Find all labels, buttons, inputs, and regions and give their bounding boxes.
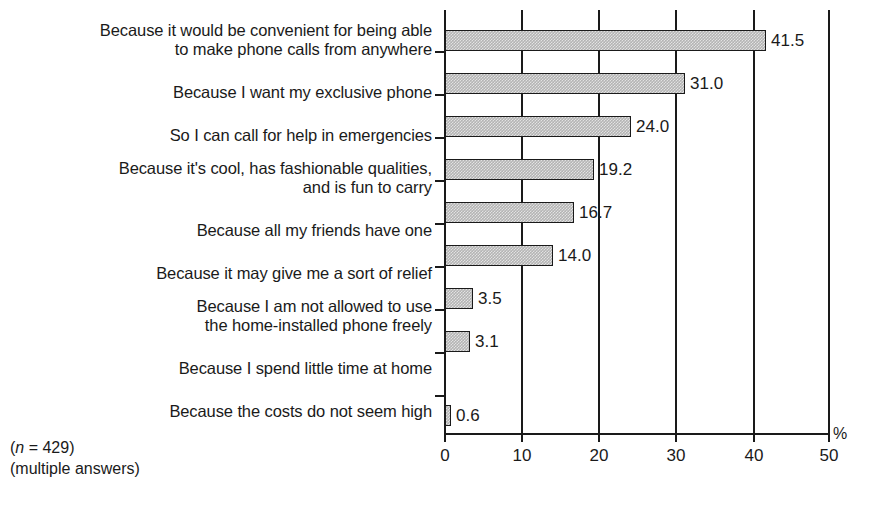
bar [445, 405, 451, 426]
bar-value-label: 14.0 [558, 245, 591, 266]
x-tick-bottom-30 [675, 433, 677, 442]
sample-italic-n: n [15, 439, 24, 456]
y-tick [435, 180, 445, 182]
x-tick-label-40: 40 [734, 446, 774, 466]
category-label: Because all my friends have one [197, 221, 432, 240]
x-tick-bottom-20 [598, 433, 600, 442]
x-tick-top-50 [828, 10, 830, 20]
plot-area: 41.5 31.0 24.0 19.2 16.7 14.0 3.5 3.1 0.… [444, 19, 830, 435]
category-label: Because I spend little time at home [179, 359, 432, 378]
y-tick [435, 266, 445, 268]
y-tick [435, 94, 445, 96]
x-axis-line [444, 433, 830, 435]
x-tick-bottom-40 [753, 433, 755, 442]
sample-rest: = 429) [24, 439, 74, 456]
x-tick-top-30 [675, 10, 677, 20]
bar [445, 245, 553, 266]
bar [445, 30, 766, 51]
bar-value-label: 16.7 [579, 202, 612, 223]
x-tick-bottom-50 [828, 433, 830, 442]
x-tick-top-40 [753, 10, 755, 20]
x-tick-label-20: 20 [579, 446, 619, 466]
x-tick-label-50: 50 [809, 446, 849, 466]
gridline-40 [753, 19, 755, 435]
multiple-answers-note: (multiple answers) [10, 458, 140, 479]
percent-unit-label: % [833, 425, 847, 443]
bar [445, 288, 473, 309]
category-label: Because it's cool, has fashionable quali… [119, 159, 432, 197]
y-tick [435, 352, 445, 354]
y-tick [435, 51, 445, 53]
x-tick-bottom-0 [444, 433, 446, 442]
category-label: Because I am not allowed to use the home… [197, 297, 432, 335]
bar [445, 159, 594, 180]
bar [445, 202, 574, 223]
y-tick [435, 223, 445, 225]
y-tick [435, 137, 445, 139]
bar-value-label: 0.6 [456, 405, 480, 426]
bar [445, 331, 470, 352]
y-tick [435, 395, 445, 397]
x-tick-top-20 [598, 10, 600, 20]
category-label: Because the costs do not seem high [169, 402, 432, 421]
x-tick-label-30: 30 [656, 446, 696, 466]
bar-value-label: 19.2 [599, 159, 632, 180]
bar-value-label: 31.0 [690, 73, 723, 94]
category-label: Because I want my exclusive phone [173, 83, 432, 102]
bar-value-label: 24.0 [636, 116, 669, 137]
x-tick-top-0 [444, 10, 446, 20]
bar [445, 116, 631, 137]
right-frame-line [828, 19, 830, 435]
x-tick-label-10: 10 [502, 446, 542, 466]
category-label: So I can call for help in emergencies [170, 126, 432, 145]
bar-value-label: 41.5 [771, 30, 804, 51]
bar-chart-figure: Because it would be convenient for being… [0, 0, 869, 505]
bar-value-label: 3.5 [478, 288, 502, 309]
footnotes: (n = 429) (multiple answers) [10, 437, 140, 479]
x-tick-bottom-10 [521, 433, 523, 442]
bar [445, 73, 685, 94]
y-tick [435, 309, 445, 311]
category-label: Because it would be convenient for being… [100, 21, 432, 59]
x-tick-label-0: 0 [425, 446, 465, 466]
x-tick-top-10 [521, 10, 523, 20]
bar-value-label: 3.1 [475, 331, 499, 352]
category-label: Because it may give me a sort of relief [156, 264, 432, 283]
sample-size-note: (n = 429) [10, 437, 140, 458]
